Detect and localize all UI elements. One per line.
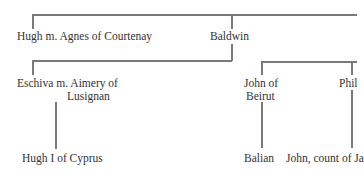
- node-baldwin: Baldwin: [210, 29, 249, 43]
- drop-line-eschiva: [32, 60, 34, 75]
- node-balian: Balian: [244, 151, 274, 165]
- line-right-children: [261, 61, 357, 63]
- top-connector-line: [32, 14, 357, 16]
- line-eschiva-down: [55, 102, 57, 149]
- node-hugh-agnes: Hugh m. Agnes of Courtenay: [17, 29, 152, 43]
- node-john-count: John, count of Ja: [286, 151, 364, 165]
- line-john-beirut-down: [261, 102, 263, 148]
- node-john-beirut-line1: John of: [244, 76, 278, 90]
- drop-line-philip: [351, 61, 353, 75]
- line-baldwin-children: [32, 60, 232, 62]
- line-baldwin-down: [231, 44, 233, 61]
- drop-line-hugh-agnes: [32, 14, 34, 29]
- node-philip: Phil: [339, 76, 358, 90]
- node-eschiva-line1: Eschiva m. Aimery of: [17, 76, 118, 90]
- drop-line-john-beirut: [261, 61, 263, 75]
- node-john-beirut-line2: Beirut: [246, 89, 275, 103]
- drop-line-baldwin: [231, 14, 233, 29]
- line-philip-down: [351, 90, 353, 148]
- node-hugh-cyprus: Hugh I of Cyprus: [22, 151, 103, 165]
- node-eschiva-line2: Lusignan: [67, 89, 110, 103]
